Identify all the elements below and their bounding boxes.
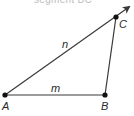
point-b	[102, 92, 107, 97]
label-point-c: C	[119, 19, 127, 30]
label-segment-m: m	[51, 83, 60, 94]
point-c	[113, 14, 118, 19]
label-point-a: A	[2, 101, 9, 112]
label-segment-n: n	[62, 39, 68, 50]
triangle-diagram	[0, 0, 134, 116]
segment-bc	[105, 17, 116, 95]
label-point-b: B	[101, 101, 108, 112]
point-a	[2, 92, 7, 97]
ray-ac	[5, 7, 129, 95]
